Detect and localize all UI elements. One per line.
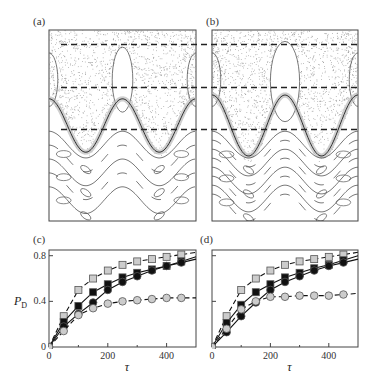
svg-text:200: 200: [100, 350, 115, 361]
plot-d: 0200400τ: [208, 250, 358, 374]
svg-text:0: 0: [41, 341, 46, 352]
plot-c: 020040000.40.8τPD: [13, 250, 196, 374]
svg-text:0: 0: [210, 350, 215, 361]
svg-text:τ: τ: [125, 360, 130, 374]
svg-text:0.4: 0.4: [34, 295, 47, 306]
svg-text:0: 0: [47, 350, 52, 361]
svg-text:400: 400: [159, 350, 174, 361]
svg-text:0.8: 0.8: [34, 250, 47, 261]
figure-canvas: 020040000.40.8τPD 0200400τ: [0, 0, 376, 382]
svg-text:200: 200: [263, 350, 278, 361]
phase-portrait-b: [203, 30, 367, 224]
svg-text:PD: PD: [13, 294, 27, 310]
phase-portrait-a: [40, 30, 205, 222]
svg-text:400: 400: [321, 350, 336, 361]
svg-text:τ: τ: [287, 360, 292, 374]
